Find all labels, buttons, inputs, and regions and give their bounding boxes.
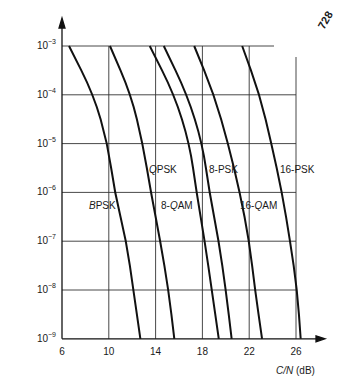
label-qpsk: QPSK [149, 164, 177, 175]
y-tick-label: 10−3 [20, 39, 56, 51]
x-tick-label: 10 [99, 346, 119, 357]
y-tick-label: 10−6 [20, 185, 56, 197]
grid-lines [62, 46, 296, 339]
axes [59, 18, 325, 342]
x-axis-arrow-icon [316, 336, 325, 342]
x-axis-label: C/N (dB) [276, 365, 315, 376]
y-tick-label: 10−9 [20, 332, 56, 344]
x-tick-label: 26 [286, 346, 306, 357]
x-tick-label: 6 [52, 346, 72, 357]
label-16psk: 16-PSK [280, 164, 314, 175]
y-tick-label: 10−4 [20, 88, 56, 100]
y-tick-label: 10−5 [20, 137, 56, 149]
x-tick-label: 14 [146, 346, 166, 357]
label-8qam: 8-QAM [161, 200, 193, 211]
x-tick-label: 22 [239, 346, 259, 357]
y-tick-label: 10−7 [20, 234, 56, 246]
x-axis-var: C/N [276, 365, 293, 376]
x-axis-unit: (dB) [293, 365, 315, 376]
y-tick-label: 10−8 [20, 283, 56, 295]
label-bpsk: BPSK [89, 200, 116, 211]
y-axis-arrow-icon [59, 18, 65, 28]
x-tick-label: 18 [192, 346, 212, 357]
label-16qam: 16-QAM [240, 200, 277, 211]
label-8psk: 8-PSK [209, 164, 238, 175]
